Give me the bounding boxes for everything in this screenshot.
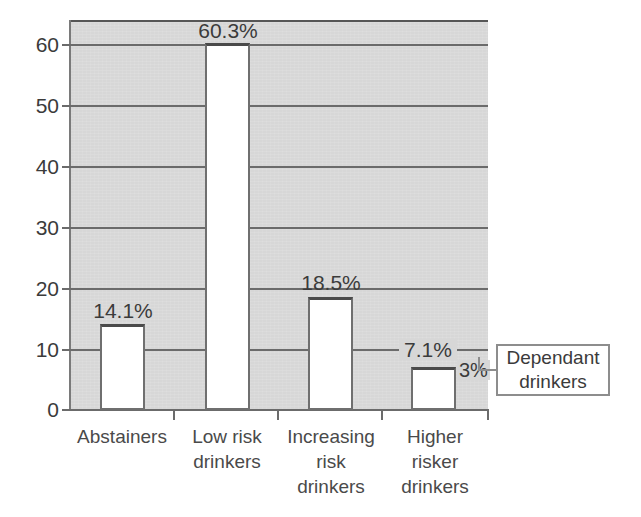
gridline-20 — [70, 288, 488, 290]
callout-label: Dependant drinkers — [507, 346, 600, 394]
gridline-30 — [70, 227, 488, 229]
y-tick-label-40: 40 — [0, 156, 59, 177]
y-tick-label-50: 50 — [0, 95, 59, 116]
category-label-low-risk-drinkers: Low risk drinkers — [177, 424, 277, 474]
y-tick-mark-50 — [62, 105, 71, 107]
y-tick-mark-30 — [62, 227, 71, 229]
gridline-40 — [70, 166, 488, 168]
bar-chart: 60 50 40 30 20 10 0 14.1% 60.3% 18.5% 7.… — [0, 0, 641, 517]
callout-leader-line — [478, 369, 497, 371]
x-tick-mark-1 — [173, 409, 175, 420]
y-tick-mark-60 — [62, 44, 71, 46]
y-tick-label-0: 0 — [0, 399, 59, 420]
bar-higher-risk-drinkers[interactable] — [411, 367, 456, 410]
y-tick-mark-0 — [62, 409, 71, 411]
category-label-higher-risk-drinkers: Higher risker drinkers — [385, 424, 485, 499]
callout-dependant-drinkers[interactable]: Dependant drinkers — [496, 344, 610, 396]
bar-low-risk-drinkers[interactable] — [205, 43, 250, 410]
x-tick-mark-4 — [487, 409, 489, 420]
value-label-increasing-risk-drinkers: 18.5% — [291, 272, 371, 293]
y-tick-label-60: 60 — [0, 34, 59, 55]
y-tick-label-30: 30 — [0, 217, 59, 238]
y-axis-line — [69, 20, 71, 411]
x-tick-mark-3 — [381, 409, 383, 420]
bar-increasing-risk-drinkers[interactable] — [308, 297, 353, 410]
y-tick-mark-40 — [62, 166, 71, 168]
y-tick-label-20: 20 — [0, 278, 59, 299]
category-label-increasing-risk-drinkers: Increasing risk drinkers — [281, 424, 381, 499]
y-tick-mark-20 — [62, 288, 71, 290]
category-label-abstainers: Abstainers — [72, 424, 172, 449]
value-label-higher-risk-drinkers: 7.1% — [399, 339, 457, 360]
bar-abstainers[interactable] — [100, 324, 145, 410]
gridline-50 — [70, 105, 488, 107]
value-label-abstainers: 14.1% — [83, 300, 163, 321]
x-tick-mark-2 — [277, 409, 279, 420]
value-label-low-risk-drinkers: 60.3% — [188, 20, 268, 41]
gridline-60 — [70, 44, 488, 46]
y-tick-label-10: 10 — [0, 339, 59, 360]
y-tick-mark-10 — [62, 349, 71, 351]
